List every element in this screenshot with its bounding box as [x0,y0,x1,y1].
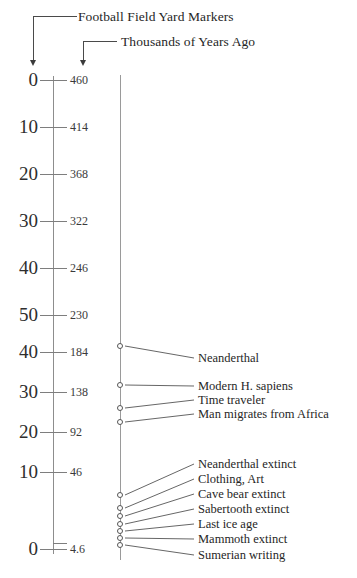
axis-tick [40,472,67,473]
axis-tick [40,80,67,81]
event-connector [125,385,194,386]
event-marker [117,382,123,388]
event-label: Sumerian writing [198,549,285,562]
axis-tick-baseline [53,543,67,544]
event-label: Cave bear extinct [198,488,285,501]
event-connector [125,545,194,555]
event-marker [117,419,123,425]
axis-tick [40,174,67,175]
axis-tick [40,315,67,316]
thousands-of-years-label: 138 [70,386,88,398]
event-marker [117,542,123,548]
event-marker [117,492,123,498]
axis-tick [40,549,67,550]
axis-tick [40,392,67,393]
yard-marker-label: 20 [6,422,38,441]
arrow-down-icon [80,60,86,66]
event-label: Man migrates from Africa [198,408,329,421]
yard-marker-label: 20 [6,164,38,183]
event-label: Last ice age [198,518,258,531]
event-marker [117,513,123,519]
timeline-figure: Football Field Yard Markers Thousands of… [0,0,357,578]
event-label: Time traveler [198,394,265,407]
event-connector [125,538,194,539]
thousands-of-years-label: 92 [70,426,82,438]
event-marker [117,405,123,411]
thousands-of-years-label: 184 [70,346,88,358]
yard-marker-label: 40 [6,342,38,361]
thousands-of-years-label: 230 [70,309,88,321]
event-label: Modern H. sapiens [198,380,293,393]
thousands-of-years-label: 414 [70,121,88,133]
axis-tick [40,432,67,433]
axis-tick [40,127,67,128]
event-marker [117,528,123,534]
thousands-of-years-label: 368 [70,168,88,180]
callout-leader-football-field [33,16,77,68]
yard-marker-label: 0 [6,70,38,89]
event-connector [125,400,194,408]
axis-tick [40,221,67,222]
event-label: Neanderthal extinct [198,458,296,471]
event-marker [117,343,123,349]
event-connector [125,509,194,524]
callout-leader-thousands-of-years [83,41,117,69]
event-connector [125,524,194,531]
event-connector [125,464,194,495]
event-label: Mammoth extinct [198,533,287,546]
arrow-down-icon [30,60,36,66]
yard-marker-label: 10 [6,117,38,136]
yard-marker-label: 0 [6,539,38,558]
event-label: Clothing, Art [198,473,264,486]
callout-football-field-yard-markers: Football Field Yard Markers [78,9,234,25]
yard-marker-label: 30 [6,382,38,401]
axis-tick [40,352,67,353]
thousands-of-years-label: 460 [70,74,88,86]
event-marker [117,535,123,541]
yard-marker-label: 10 [6,462,38,481]
event-label: Neanderthal [198,352,259,365]
yard-marker-label: 50 [6,305,38,324]
event-connector [125,479,194,508]
callout-thousands-of-years-ago: Thousands of Years Ago [121,34,255,50]
yard-marker-label: 40 [6,258,38,277]
event-timeline-axis [120,75,121,560]
yard-marker-label: 30 [6,211,38,230]
event-marker [117,505,123,511]
thousands-of-years-label: 246 [70,262,88,274]
thousands-of-years-label: 46 [70,466,82,478]
event-connector [125,494,194,516]
thousands-of-years-label: 4.6 [70,543,85,555]
event-label: Sabertooth extinct [198,503,289,516]
thousands-of-years-label: 322 [70,215,88,227]
event-connector [125,414,194,422]
event-connector [125,346,194,358]
axis-tick [40,268,67,269]
event-marker [117,521,123,527]
